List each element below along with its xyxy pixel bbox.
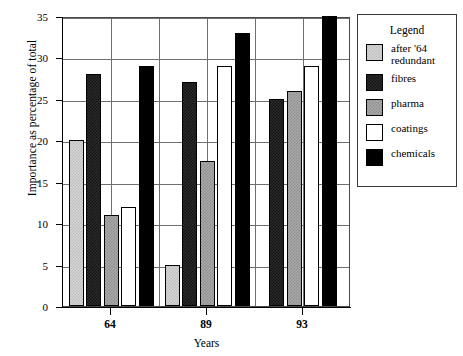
bar-after-64-redundant-64 [69, 140, 84, 306]
y-tick-label: 10 [14, 219, 48, 230]
vertical-gridline [159, 18, 160, 306]
bar-coatings-89 [217, 66, 232, 306]
x-tick [110, 308, 111, 315]
legend-item-pharma: pharma [366, 98, 456, 116]
x-tick [302, 308, 303, 315]
bar-chemicals-89 [235, 33, 250, 306]
bar-chemicals-93 [322, 16, 337, 306]
y-tick-label: 5 [14, 260, 48, 271]
bar-after-64-redundant-89 [165, 265, 180, 306]
x-tick-label-93: 93 [272, 318, 332, 330]
legend-label-pharma: pharma [391, 98, 424, 110]
y-tick-label: 30 [14, 53, 48, 64]
legend-label-chemicals: chemicals [391, 148, 435, 160]
y-tick-label: 15 [14, 177, 48, 188]
legend-swatch-coatings [366, 124, 383, 141]
legend-item-coatings: coatings [366, 123, 456, 141]
legend-swatch-pharma [366, 99, 383, 116]
y-axis-line [62, 17, 63, 307]
plot-area [62, 17, 350, 307]
legend-swatch-fibres [366, 74, 383, 91]
legend-swatch-after [366, 44, 383, 61]
bar-coatings-64 [121, 207, 136, 306]
legend-item-fibres: fibres [366, 73, 456, 91]
x-axis-title: Years [62, 337, 351, 349]
bar-pharma-89 [200, 161, 215, 306]
gridline [63, 18, 349, 19]
legend-label-after: after '64redundant [391, 43, 435, 66]
legend-box: Legend after '64redundantfibrespharmacoa… [357, 14, 457, 187]
legend-item-after: after '64redundant [366, 43, 456, 66]
y-tick-label: 0 [14, 302, 48, 313]
legend-item-chemicals: chemicals [366, 148, 456, 166]
y-tick-label: 35 [14, 12, 48, 23]
legend-label-fibres: fibres [391, 73, 416, 85]
x-tick [206, 308, 207, 315]
gridline [63, 59, 349, 60]
vertical-gridline [255, 18, 256, 306]
bar-fibres-89 [182, 82, 197, 306]
y-tick-label: 20 [14, 136, 48, 147]
legend-swatch-chemicals [366, 149, 383, 166]
bar-fibres-64 [86, 74, 101, 306]
legend-items: after '64redundantfibrespharmacoatingsch… [358, 43, 456, 166]
bar-pharma-93 [287, 91, 302, 306]
legend-label-coatings: coatings [391, 123, 428, 135]
bar-coatings-93 [304, 66, 319, 306]
y-tick-label: 25 [14, 94, 48, 105]
legend-title: Legend [358, 24, 456, 36]
bar-chemicals-64 [139, 66, 154, 306]
x-tick-label-89: 89 [176, 318, 236, 330]
y-axis-title: Importance as percentage of total [26, 0, 38, 243]
x-tick-label-64: 64 [80, 318, 140, 330]
bar-pharma-64 [104, 215, 119, 306]
bar-fibres-93 [269, 99, 284, 306]
bar-chart-figure: Importance as percentage of total 051015… [0, 0, 463, 356]
